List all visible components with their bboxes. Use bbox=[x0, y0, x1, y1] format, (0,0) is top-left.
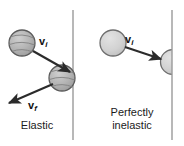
elastic-incoming-ball bbox=[9, 30, 35, 56]
elastic-v-final-label: vf bbox=[28, 99, 37, 111]
collision-comparison-figure: vi vf vi Elastic Perfectly inelastic bbox=[0, 0, 184, 146]
elastic-contact-ball bbox=[49, 65, 75, 91]
inelastic-v-initial-label: vi bbox=[125, 33, 133, 45]
elastic-v-initial-label: vi bbox=[39, 35, 47, 47]
panel-caption-perfectly-inelastic: Perfectly inelastic bbox=[97, 106, 167, 131]
inelastic-v-initial-arrow bbox=[125, 47, 161, 59]
inelastic-incoming-ball bbox=[100, 30, 126, 56]
v-final-subscript: f bbox=[34, 104, 37, 113]
elastic-v-initial-arrow bbox=[33, 51, 70, 72]
panel-caption-elastic: Elastic bbox=[4, 119, 70, 132]
